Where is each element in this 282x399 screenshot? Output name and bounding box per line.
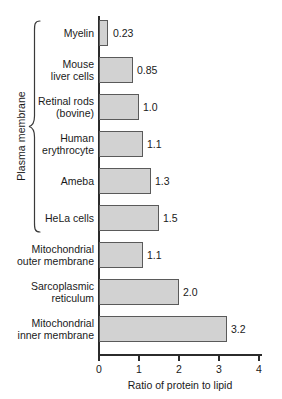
x-tick-3 [218, 355, 220, 361]
bar-mitochondrial-inner-membrane [99, 316, 227, 342]
protein-lipid-ratio-bar-chart: Plasma membrane 0 1 2 3 4 Ratio of prote… [0, 0, 282, 399]
bar-value-myelin: 0.23 [113, 20, 133, 46]
bar-value-human-erythrocyte: 1.1 [147, 131, 162, 157]
bar-value-hela-cells: 1.5 [163, 205, 178, 231]
bar-sarcoplasmic-reticulum [99, 279, 179, 305]
category-label-retinal-rods: Retinal rods (bovine) [6, 94, 94, 120]
x-tick-label-1: 1 [129, 363, 149, 375]
category-label-mouse-liver-cells: Mouse liver cells [6, 57, 94, 83]
category-label-sarcoplasmic-reticulum: Sarcoplasmic reticulum [6, 279, 94, 305]
category-label-ameba: Ameba [6, 168, 94, 194]
category-label-mitochondrial-inner-membrane: Mitochondrial inner membrane [6, 316, 94, 342]
bar-mouse-liver-cells [99, 57, 133, 83]
category-label-human-erythrocyte: Human erythrocyte [6, 131, 94, 157]
x-tick-0 [98, 355, 100, 361]
bar-value-mitochondrial-inner-membrane: 3.2 [231, 316, 246, 342]
x-axis-line [98, 354, 262, 356]
x-tick-label-2: 2 [169, 363, 189, 375]
x-tick-2 [178, 355, 180, 361]
bar-value-sarcoplasmic-reticulum: 2.0 [183, 279, 198, 305]
category-label-mitochondrial-outer-membrane: Mitochondrial outer membrane [6, 242, 94, 268]
bar-mitochondrial-outer-membrane [99, 242, 143, 268]
x-tick-4 [258, 355, 260, 361]
x-tick-label-3: 3 [209, 363, 229, 375]
bar-ameba [99, 168, 151, 194]
bar-human-erythrocyte [99, 131, 143, 157]
x-tick-1 [138, 355, 140, 361]
category-label-hela-cells: HeLa cells [6, 205, 94, 231]
bar-value-retinal-rods: 1.0 [143, 94, 158, 120]
x-tick-label-0: 0 [89, 363, 109, 375]
bar-retinal-rods [99, 94, 139, 120]
bar-value-mitochondrial-outer-membrane: 1.1 [147, 242, 162, 268]
category-label-myelin: Myelin [6, 20, 94, 46]
x-tick-label-4: 4 [249, 363, 269, 375]
bar-myelin [99, 20, 108, 46]
bar-value-mouse-liver-cells: 0.85 [137, 57, 157, 83]
bar-value-ameba: 1.3 [155, 168, 170, 194]
bar-hela-cells [99, 205, 159, 231]
x-axis-label: Ratio of protein to lipid [98, 379, 262, 392]
plot-area: 0 1 2 3 4 Ratio of protein to lipid Myel… [0, 0, 282, 399]
